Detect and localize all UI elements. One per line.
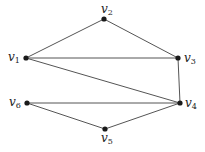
edge-v1-v4 <box>26 58 180 103</box>
edge-v1-v2 <box>26 19 104 58</box>
node-v4 <box>177 100 182 105</box>
edges-group <box>26 19 180 129</box>
graph-canvas <box>0 0 205 152</box>
edge-v5-v4 <box>105 103 180 129</box>
label-base: v <box>101 2 108 16</box>
node-v2 <box>101 16 106 21</box>
label-v2: v2 <box>101 3 113 17</box>
label-base: v <box>9 95 16 109</box>
edge-v6-v5 <box>27 103 105 129</box>
node-v6 <box>24 100 29 105</box>
label-v5: v5 <box>101 132 113 146</box>
label-v1: v1 <box>8 51 20 65</box>
label-subscript: 6 <box>16 101 21 110</box>
label-subscript: 1 <box>15 56 20 65</box>
node-v1 <box>23 55 28 60</box>
edge-v2-v3 <box>104 19 178 58</box>
label-base: v <box>185 96 192 110</box>
nodes-group <box>23 16 182 131</box>
label-base: v <box>101 131 108 145</box>
label-v3: v3 <box>184 52 196 66</box>
edge-v3-v4 <box>178 58 180 103</box>
node-v3 <box>175 55 180 60</box>
label-subscript: 5 <box>108 137 113 146</box>
label-subscript: 2 <box>108 8 113 17</box>
label-base: v <box>184 51 191 65</box>
label-subscript: 4 <box>192 102 197 111</box>
label-v6: v6 <box>9 96 21 110</box>
label-base: v <box>8 50 15 64</box>
label-v4: v4 <box>185 97 197 111</box>
label-subscript: 3 <box>191 57 196 66</box>
